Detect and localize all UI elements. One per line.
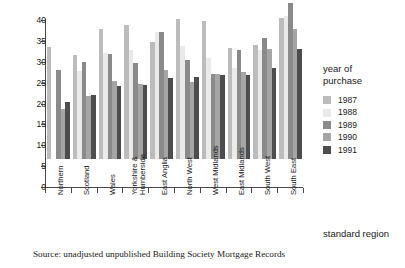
bar-group [73,0,96,159]
bar-group [253,0,276,159]
x-axis-tick [277,188,278,193]
legend-label: 1988 [338,108,357,117]
x-axis-category-label: Scotland [83,165,92,195]
y-axis-tick-label-wrap: 35 [0,37,46,38]
x-axis-tick [200,188,201,193]
legend-entry: 1991 [323,144,403,156]
x-axis-tick [97,188,98,193]
x-axis-category-label: East Anglia [161,157,170,195]
bar-chart: 0510152025303540 NorthernScotlandWalesYo… [0,0,310,240]
legend-entry: 1987 [323,94,403,106]
legend-entries: 19871988198919901991 [323,94,403,156]
y-axis-tick-label-wrap: 15 [0,120,46,121]
bar-group [202,0,225,159]
legend-entry: 1988 [323,106,403,118]
x-axis-tick [251,188,252,193]
x-axis-tick [71,188,72,193]
x-axis-tick [303,188,304,193]
x-axis-category-label: East Midlands [238,147,247,195]
y-axis-tick-label: 20 [20,100,46,109]
bar [47,47,52,159]
bar-group [47,0,70,159]
x-axis-tick [226,188,227,193]
y-axis-tick-label: 15 [20,120,46,129]
legend-label: 1987 [338,96,357,105]
bar-group [99,0,122,159]
bar [65,102,70,159]
bar [168,78,173,159]
legend-label: 1990 [338,133,357,142]
y-axis-tick-label-wrap: 0 [0,183,46,184]
x-axis-category-label: North West [186,157,195,195]
bar [297,49,302,159]
bar-group [176,0,199,159]
y-axis-tick-label-wrap: 20 [0,100,46,101]
legend: year of purchase 19871988198919901991 [323,63,403,156]
legend-swatch [323,96,331,104]
x-axis-category-label: Wales [109,174,118,195]
y-axis-tick-label-wrap: 10 [0,141,46,142]
bar [194,77,199,159]
legend-entry: 1990 [323,131,403,143]
x-axis-tick [174,188,175,193]
y-axis-tick-label: 40 [20,16,46,25]
source-note: Source: unadjusted unpublished Building … [33,249,285,259]
legend-swatch [323,109,331,117]
y-axis-tick-label-wrap: 5 [0,162,46,163]
y-axis-tick-label: 10 [20,141,46,150]
y-axis-tick-label: 5 [20,162,46,171]
y-axis-tick-label-wrap: 25 [0,79,46,80]
bar [220,75,225,159]
legend-swatch [323,121,331,129]
bar [91,95,96,159]
x-axis-title: standard region [323,228,389,239]
legend-swatch [323,146,331,154]
bar-group [150,0,173,159]
x-axis-category-label: South East [290,158,299,195]
bar-group [228,0,251,159]
legend-entry: 1989 [323,119,403,131]
bar-group [124,0,147,159]
bar [143,85,148,159]
legend-label: 1989 [338,121,357,130]
x-axis-tick [45,188,46,193]
x-axis-tick [148,188,149,193]
legend-title: year of purchase [323,63,403,86]
y-axis-tick-label: 35 [20,37,46,46]
bar [117,86,122,159]
y-axis-tick-label-wrap: 30 [0,58,46,59]
x-axis-category-label: West Midlands [212,145,221,195]
y-axis-tick-label: 25 [20,79,46,88]
bar-group [279,0,302,159]
x-axis-tick [122,188,123,193]
legend-swatch [323,133,331,141]
y-axis-tick-label: 0 [20,183,46,192]
bar [272,68,277,159]
x-axis-category-label: Yorkshire &Humberside [131,154,148,195]
legend-label: 1991 [338,146,357,155]
x-axis-category-label: South West [264,156,273,195]
y-axis-tick-label-wrap: 40 [0,16,46,17]
y-axis-tick-label: 30 [20,58,46,67]
x-axis-category-label: Northern [57,165,66,195]
